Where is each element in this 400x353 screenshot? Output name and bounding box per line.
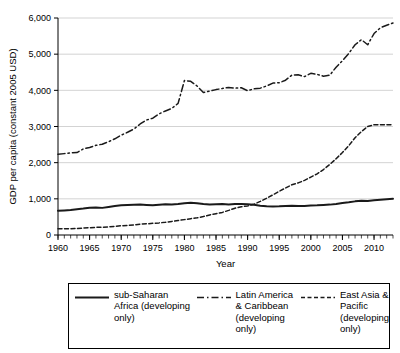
x-tick-label: 1995	[269, 243, 289, 253]
legend-item-latin-america-caribbean: Latin America & Caribbean (developing on…	[191, 284, 297, 348]
legend-swatch-solid-icon	[75, 292, 109, 303]
legend-item-sub-saharan-africa: sub-Saharan Africa (developing only)	[69, 284, 191, 348]
legend-label: Latin America & Caribbean (developing on…	[236, 289, 297, 335]
chart-legend: sub-Saharan Africa (developing only) Lat…	[68, 283, 390, 349]
legend-swatch-dashed-icon	[301, 292, 335, 303]
y-axis-title: GDP per capita (constant 2005 USD)	[7, 48, 18, 204]
x-tick-label: 2005	[332, 243, 352, 253]
x-tick-label: 1970	[111, 243, 131, 253]
legend-label: sub-Saharan Africa (developing only)	[114, 289, 191, 323]
y-tick-label: 4,000	[28, 86, 51, 96]
x-tick-label: 1990	[238, 243, 258, 253]
y-tick-label: 5,000	[28, 49, 51, 59]
x-tick-label: 1980	[174, 243, 194, 253]
y-tick-label: 3,000	[28, 122, 51, 132]
x-tick-label: 1985	[206, 243, 226, 253]
y-tick-label: 6,000	[28, 13, 51, 23]
x-tick-label: 1975	[143, 243, 163, 253]
x-tick-label: 1960	[48, 243, 68, 253]
y-tick-label: 2,000	[28, 158, 51, 168]
legend-label: East Asia & Pacific (developing only)	[340, 289, 389, 335]
x-axis-title: Year	[216, 258, 235, 269]
x-tick-label: 1965	[80, 243, 100, 253]
y-tick-label: 0	[46, 230, 51, 240]
gdp-per-capita-chart: 01,0002,0003,0004,0005,0006,000196019651…	[0, 0, 400, 353]
series-line	[58, 125, 393, 229]
x-tick-label: 2010	[364, 243, 384, 253]
series-line	[58, 23, 393, 154]
y-tick-label: 1,000	[28, 194, 51, 204]
legend-item-east-asia-pacific: East Asia & Pacific (developing only)	[297, 284, 389, 348]
series-line	[58, 199, 393, 211]
x-tick-label: 2000	[301, 243, 321, 253]
legend-swatch-dashdot-icon	[197, 292, 231, 303]
